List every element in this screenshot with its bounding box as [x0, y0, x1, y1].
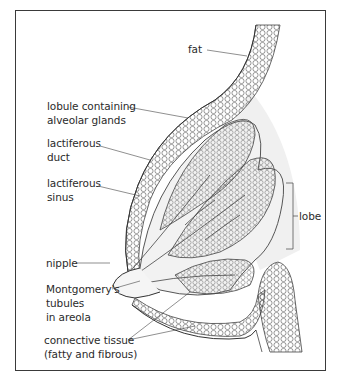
label-montgomery-line2: tubules	[46, 297, 84, 310]
label-fat: fat	[188, 43, 202, 56]
label-connective-line1: connective tissue	[44, 334, 134, 347]
label-lobe: lobe	[299, 210, 321, 223]
label-montgomery-line3: in areola	[46, 311, 91, 324]
label-duct-line1: lactiferous	[47, 137, 101, 150]
fat-column-chest-wall	[258, 262, 302, 352]
label-nipple: nipple	[46, 257, 78, 270]
label-sinus-line2: sinus	[47, 191, 74, 204]
label-connective-line2: (fatty and fibrous)	[44, 348, 137, 361]
label-duct-line2: duct	[47, 151, 70, 164]
label-montgomery-line1: Montgomery's	[46, 283, 120, 296]
label-lobule-line1: lobule containing	[47, 100, 136, 113]
label-lobule-line2: alveolar glands	[47, 114, 126, 127]
fat-layer-lower	[132, 290, 265, 336]
label-sinus-line1: lactiferous	[47, 177, 101, 190]
